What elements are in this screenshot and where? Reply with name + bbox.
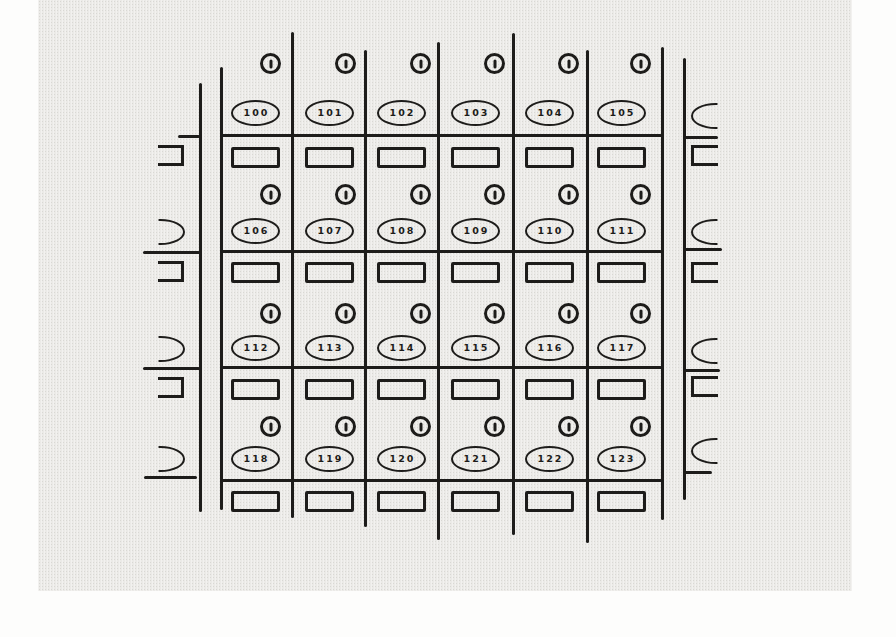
- shelf-divider-stub: [684, 369, 720, 372]
- keyhole-icon: [558, 416, 579, 437]
- keyhole-icon: [260, 303, 281, 324]
- number-plate: 103: [451, 100, 500, 126]
- box-number: 110: [536, 226, 564, 236]
- box-number: 102: [388, 108, 416, 118]
- keyhole-icon: [335, 303, 356, 324]
- box-number: 120: [388, 454, 416, 464]
- cabinet-wall-line: [586, 50, 589, 543]
- shelf-divider-line: [221, 479, 662, 482]
- door-slot: [525, 379, 574, 400]
- cabinet-wall-line: [683, 58, 686, 500]
- number-plate: 119: [305, 446, 354, 472]
- keyhole-icon: [484, 303, 505, 324]
- cabinet-wall-line: [661, 47, 664, 520]
- door-slot: [525, 147, 574, 168]
- door-slot: [597, 147, 646, 168]
- shelf-divider-stub: [143, 367, 200, 370]
- number-plate: 111: [597, 218, 646, 244]
- number-plate: 106: [231, 218, 280, 244]
- door-slot: [305, 262, 354, 283]
- box-number: 111: [608, 226, 636, 236]
- door-slot: [377, 491, 426, 512]
- shelf-divider-stub: [144, 476, 197, 479]
- keyhole-icon: [484, 53, 505, 74]
- door-slot: [597, 262, 646, 283]
- box-number: 101: [316, 108, 344, 118]
- box-number: 113: [316, 343, 344, 353]
- door-slot: [377, 147, 426, 168]
- cutaway-door-slot: [691, 262, 718, 283]
- number-plate: 102: [377, 100, 426, 126]
- cutaway-door-slot: [158, 145, 184, 166]
- cabinet-wall-line: [291, 32, 294, 518]
- box-number: 118: [242, 454, 270, 464]
- shelf-divider-stub: [684, 136, 718, 139]
- box-number: 109: [462, 226, 490, 236]
- number-plate: 123: [597, 446, 646, 472]
- number-plate: 118: [231, 446, 280, 472]
- number-plate: 121: [451, 446, 500, 472]
- cabinet-wall-line: [199, 83, 202, 512]
- door-slot: [451, 147, 500, 168]
- keyhole-icon: [558, 184, 579, 205]
- box-number: 119: [316, 454, 344, 464]
- door-slot: [597, 379, 646, 400]
- number-plate: 110: [525, 218, 574, 244]
- keyhole-icon: [260, 53, 281, 74]
- box-number: 121: [462, 454, 490, 464]
- keyhole-icon: [410, 184, 431, 205]
- keyhole-icon: [630, 303, 651, 324]
- cabinet-wall-line: [512, 33, 515, 535]
- cabinet-wall-line: [437, 42, 440, 540]
- door-slot: [525, 491, 574, 512]
- cutaway-door-slot: [158, 377, 184, 398]
- shelf-divider-stub: [684, 248, 722, 251]
- number-plate: 115: [451, 335, 500, 361]
- door-slot: [305, 491, 354, 512]
- number-plate: 107: [305, 218, 354, 244]
- cabinet-wall-line: [364, 50, 367, 527]
- number-plate: 112: [231, 335, 280, 361]
- number-plate: 113: [305, 335, 354, 361]
- box-number: 123: [608, 454, 636, 464]
- door-slot: [305, 379, 354, 400]
- box-number: 105: [608, 108, 636, 118]
- door-slot: [525, 262, 574, 283]
- box-number: 114: [388, 343, 416, 353]
- keyhole-icon: [410, 303, 431, 324]
- box-number: 115: [462, 343, 490, 353]
- number-plate: 108: [377, 218, 426, 244]
- door-slot: [377, 379, 426, 400]
- box-number: 107: [316, 226, 344, 236]
- shelf-divider-stub: [143, 251, 200, 254]
- number-plate: 117: [597, 335, 646, 361]
- shelf-divider-line: [221, 134, 662, 137]
- shelf-divider-line: [221, 366, 662, 369]
- door-slot: [451, 491, 500, 512]
- shelf-divider-stub: [178, 135, 200, 138]
- number-plate: 122: [525, 446, 574, 472]
- shelf-divider-stub: [684, 471, 712, 474]
- door-slot: [305, 147, 354, 168]
- number-plate: 120: [377, 446, 426, 472]
- box-number: 104: [536, 108, 564, 118]
- keyhole-icon: [260, 184, 281, 205]
- door-slot: [231, 379, 280, 400]
- box-number: 117: [608, 343, 636, 353]
- keyhole-icon: [260, 416, 281, 437]
- keyhole-icon: [484, 416, 505, 437]
- box-number: 112: [242, 343, 270, 353]
- box-number: 100: [242, 108, 270, 118]
- door-slot: [231, 262, 280, 283]
- cutaway-door-slot: [158, 261, 184, 282]
- shelf-divider-line: [221, 250, 662, 253]
- box-number: 106: [242, 226, 270, 236]
- number-plate: 116: [525, 335, 574, 361]
- door-slot: [231, 147, 280, 168]
- keyhole-icon: [335, 184, 356, 205]
- keyhole-icon: [630, 416, 651, 437]
- number-plate: 114: [377, 335, 426, 361]
- box-number: 103: [462, 108, 490, 118]
- door-slot: [377, 262, 426, 283]
- number-plate: 100: [231, 100, 280, 126]
